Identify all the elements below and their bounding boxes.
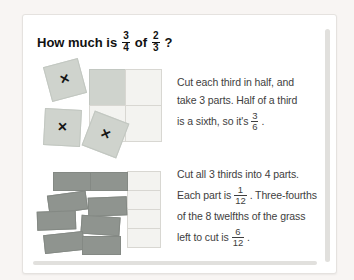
grass-rect — [82, 236, 121, 255]
fraction-three-sixths: 3 6 — [251, 111, 258, 132]
right-edge-shadow — [325, 29, 330, 262]
crossed-tile: × — [43, 58, 87, 102]
grass-rect — [43, 231, 85, 254]
cross-icon: × — [99, 124, 113, 142]
grass-rect — [88, 196, 128, 216]
cross-icon: × — [57, 118, 67, 134]
fraction-six-twelfths: 6 12 — [232, 227, 244, 248]
twelfth-cell — [127, 171, 161, 191]
question-card: How much is 3 4 of 2 3 ? × × × — [22, 14, 337, 274]
grass-rect — [90, 172, 128, 191]
step2-text: Cut all 3 thirds into 4 parts. Each part… — [177, 165, 317, 249]
grid-cell-shaded — [89, 69, 126, 106]
grass-rect — [37, 210, 77, 230]
fraction-one-twelfth: 1 12 — [234, 185, 246, 206]
grass-rect — [80, 215, 120, 237]
title-fraction-two-thirds: 2 3 — [152, 31, 160, 53]
crossed-tile: × — [43, 108, 82, 147]
title-fraction-three-fourths: 3 4 — [122, 31, 130, 53]
title-prefix: How much is — [37, 35, 117, 50]
grass-rect — [53, 172, 92, 191]
title-question-mark: ? — [165, 35, 173, 50]
twelfth-cell — [127, 209, 161, 229]
twelfth-cell — [127, 228, 161, 248]
step2-line2: Each part is 1 12 . Three-fourths — [177, 183, 317, 207]
page-title: How much is 3 4 of 2 3 ? — [37, 29, 173, 55]
grid-cell — [125, 105, 162, 142]
page-background: How much is 3 4 of 2 3 ? × × × — [0, 0, 354, 280]
step1-text: Cut each third in half, and take 3 parts… — [177, 73, 297, 133]
step2-line4: left to cut is 6 12 . — [177, 225, 317, 249]
step2-line3: of the 8 twelfths of the grass — [177, 207, 317, 225]
step1-line2: take 3 parts. Half of a third — [177, 91, 297, 109]
cross-icon: × — [58, 70, 71, 88]
step1-line3: is a sixth, so it's 3 6 . — [177, 109, 297, 133]
twelfth-cell — [127, 190, 161, 210]
step1-line1: Cut each third in half, and — [177, 73, 297, 91]
title-connector: of — [135, 35, 147, 50]
bottom-edge-shadow — [33, 261, 317, 265]
grid-cell — [125, 69, 162, 106]
twelfths-column — [127, 172, 161, 248]
step2-line1: Cut all 3 thirds into 4 parts. — [177, 165, 317, 183]
